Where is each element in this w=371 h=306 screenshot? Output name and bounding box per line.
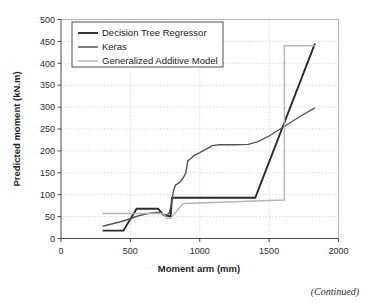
y-tick-label: 400 xyxy=(40,59,55,69)
line-chart: 050100150200250300350400450500 050010001… xyxy=(0,0,371,306)
y-tick-label: 300 xyxy=(40,102,55,112)
y-tick-label: 250 xyxy=(40,124,55,134)
x-axis-title: Moment arm (mm) xyxy=(158,263,240,274)
legend-label-1: Keras xyxy=(102,41,127,52)
y-tick-label: 100 xyxy=(40,190,55,200)
legend-label-2: Generalized Additive Model xyxy=(102,55,218,66)
x-tick-label: 2000 xyxy=(328,246,348,256)
y-tick-label: 200 xyxy=(40,146,55,156)
x-tick-label: 1000 xyxy=(190,246,210,256)
legend-label-0: Decision Tree Regressor xyxy=(102,27,207,38)
x-tick-label: 1500 xyxy=(259,246,279,256)
x-tick-label: 0 xyxy=(58,246,63,256)
continued-note: (Continued) xyxy=(311,286,359,297)
y-tick-label: 0 xyxy=(50,234,55,244)
x-tick-label: 500 xyxy=(123,246,138,256)
y-tick-label: 350 xyxy=(40,80,55,90)
y-axis-title: Predicted moment (kN.m) xyxy=(11,71,22,186)
y-tick-label: 500 xyxy=(40,15,55,25)
y-tick-label: 50 xyxy=(45,212,55,222)
y-tick-label: 450 xyxy=(40,37,55,47)
y-tick-label: 150 xyxy=(40,168,55,178)
chart-figure: 050100150200250300350400450500 050010001… xyxy=(0,0,371,306)
chart-legend: Decision Tree RegressorKerasGeneralized … xyxy=(72,22,223,67)
